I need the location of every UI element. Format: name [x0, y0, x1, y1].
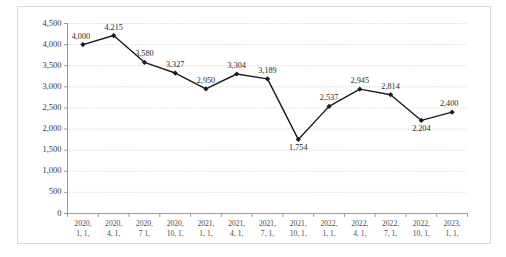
y-axis-tick-label: 2,000	[42, 124, 61, 133]
data-point-label: 3,327	[161, 60, 189, 69]
y-axis-tick-label: 4,000	[42, 40, 61, 49]
y-axis	[64, 24, 68, 214]
x-axis-tick-label: 2020,10, 1,	[160, 219, 191, 240]
y-axis-tick-label: 0	[57, 209, 61, 218]
line-chart: 05001,0001,5002,0002,5003,0003,5004,0004…	[0, 0, 506, 257]
chart-screenshot: 05001,0001,5002,0002,5003,0003,5004,0004…	[0, 0, 506, 257]
data-point-marker	[265, 76, 270, 81]
x-axis-tick-label: 2020,4, 1,	[98, 219, 129, 240]
y-axis-tick-label: 1,500	[42, 145, 61, 154]
x-axis-tick-label: 2021,1, 1,	[191, 219, 222, 240]
x-axis-tick-label: 2022,10, 1,	[406, 219, 437, 240]
x-axis-tick-label: 2021,7, 1,	[252, 219, 283, 240]
data-point-label: 4,000	[67, 32, 95, 41]
data-point-marker	[203, 86, 208, 91]
y-axis-tick-label: 4,500	[42, 19, 61, 28]
data-point-label: 3,304	[223, 61, 251, 70]
data-point-label: 1,754	[284, 143, 312, 152]
x-axis-tick-label: 2022,1, 1,	[314, 219, 345, 240]
data-point-label: 3,580	[130, 49, 158, 58]
x-axis-tick-label: 2021,10, 1,	[283, 219, 314, 240]
x-axis-tick-label: 2022,7, 1,	[375, 219, 406, 240]
data-point-label: 2,950	[192, 76, 220, 85]
x-axis-tick-label: 2022,4, 1,	[344, 219, 375, 240]
data-point-label: 2,945	[346, 76, 374, 85]
data-point-marker	[234, 71, 239, 76]
data-point-label: 3,189	[254, 66, 282, 75]
x-axis-tick-label: 2021,4, 1,	[221, 219, 252, 240]
data-point-marker	[450, 110, 455, 115]
y-axis-tick-label: 500	[49, 187, 62, 196]
data-point-marker	[80, 42, 85, 47]
y-axis-tick-label: 2,500	[42, 103, 61, 112]
data-point-label: 2,400	[435, 99, 463, 108]
x-axis-tick-label: 2023,1, 1,	[437, 219, 468, 240]
data-point-label: 2,537	[315, 93, 343, 102]
data-point-label: 2,204	[407, 124, 435, 133]
x-axis	[68, 214, 468, 218]
data-point-label: 4,215	[100, 23, 128, 32]
data-point-label: 2,814	[377, 82, 405, 91]
y-axis-tick-label: 1,000	[42, 166, 61, 175]
y-axis-tick-label: 3,000	[42, 82, 61, 91]
data-point-marker	[173, 70, 178, 75]
x-axis-tick-label: 2020,7 1,	[129, 219, 160, 240]
x-axis-tick-label: 2020,1, 1,	[68, 219, 99, 240]
y-axis-tick-label: 3,500	[42, 61, 61, 70]
